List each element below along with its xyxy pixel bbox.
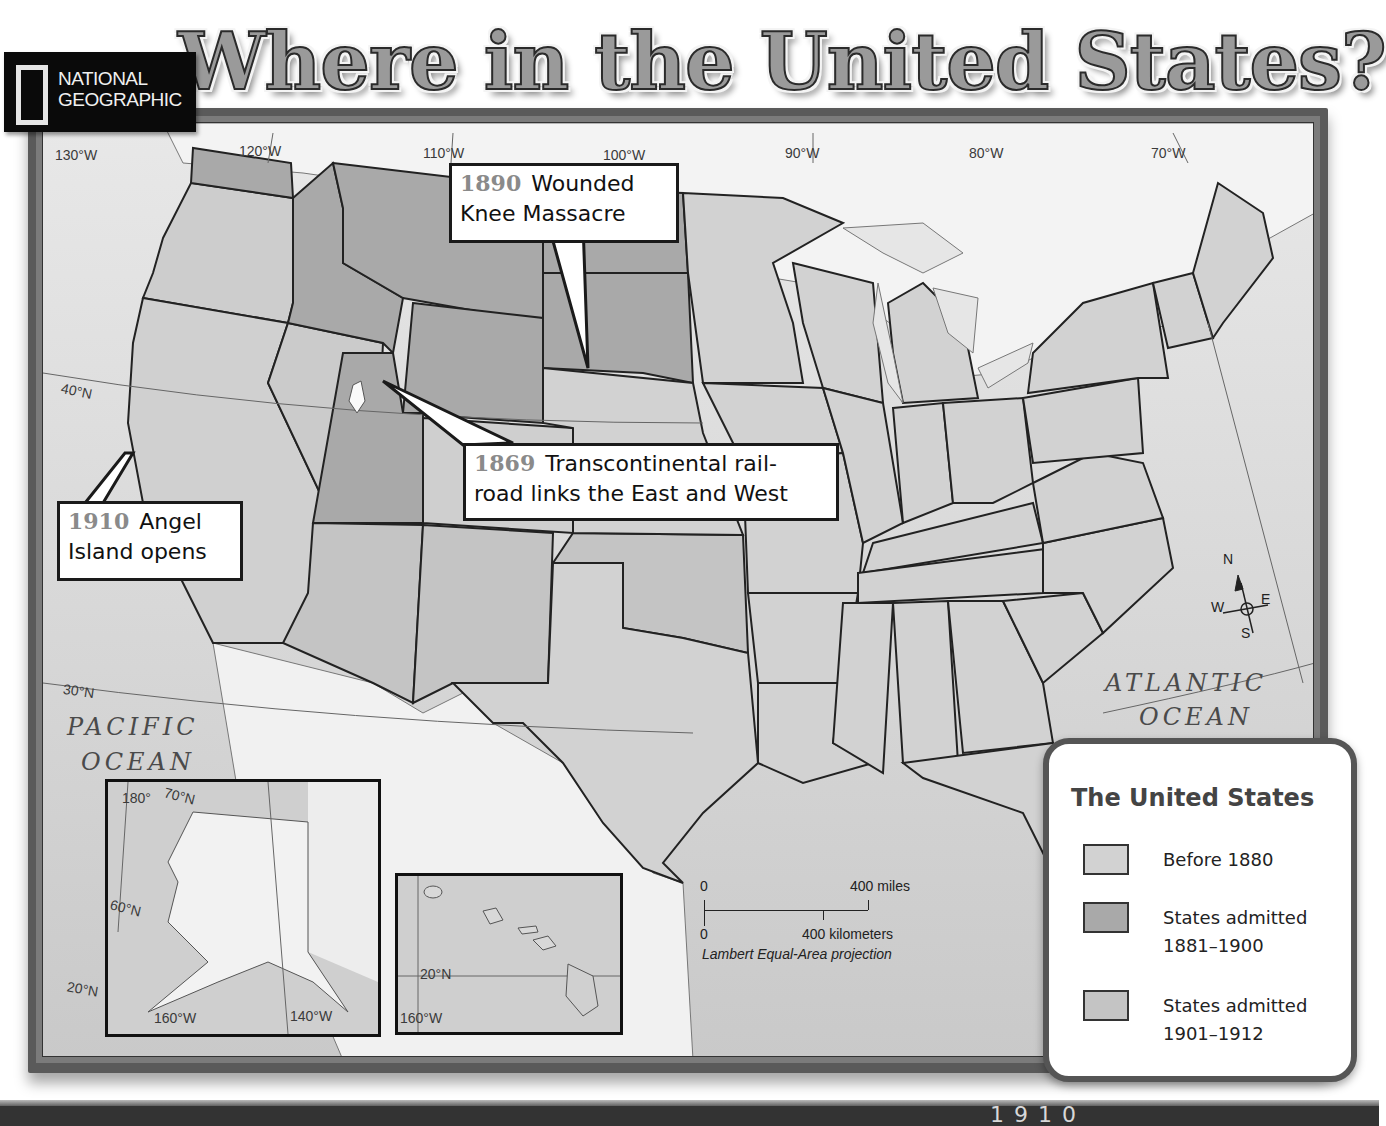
hawaii-map-graphic xyxy=(398,876,620,1032)
callout-text-line2: Island opens xyxy=(68,539,207,564)
hawaii-label-160w: 160°W xyxy=(400,1010,442,1026)
pacific-ocean-label-1: PACIFIC xyxy=(67,713,199,741)
hawaii-inset: 20°N 160°W xyxy=(395,873,623,1035)
national-geographic-logo: NATIONAL GEOGRAPHIC xyxy=(4,52,196,132)
pacific-ocean-label-2: OCEAN xyxy=(81,748,195,776)
compass-east: E xyxy=(1261,591,1270,607)
longitude-label-130w: 130°W xyxy=(55,147,97,163)
natgeo-line1: NATIONAL xyxy=(58,68,182,89)
callout-angel-island: 1910Angel Island opens xyxy=(57,501,243,581)
alaska-label-160w: 160°W xyxy=(154,1010,196,1026)
atlantic-ocean-label-1: ATLANTIC xyxy=(1105,669,1267,697)
state-ohio xyxy=(943,398,1033,503)
callout-text-line1: Transcontinental rail- xyxy=(545,451,777,476)
callout-text-line1: Wounded xyxy=(531,171,634,196)
scale-km-label: 400 kilometers xyxy=(802,926,893,942)
natgeo-yellow-border-icon xyxy=(16,65,48,125)
scale-km-zero: 0 xyxy=(700,926,708,942)
legend-swatch xyxy=(1083,844,1129,875)
compass-north: N xyxy=(1223,551,1233,567)
compass-south: S xyxy=(1241,625,1250,641)
title-banner: Where in the United States? xyxy=(178,6,1213,118)
natgeo-brand-text: NATIONAL GEOGRAPHIC xyxy=(58,68,182,110)
scale-bar: 0 400 miles 0 400 kilometers Lambert Equ… xyxy=(698,876,928,966)
legend-label: States admitted 1901–1912 xyxy=(1163,992,1323,1048)
alaska-label-180: 180° xyxy=(122,790,151,806)
longitude-label-120w: 120°W xyxy=(239,143,281,159)
longitude-label-110w: 110°W xyxy=(423,145,464,161)
hawaii-label-20n: 20°N xyxy=(420,966,451,982)
callout-transcontinental-railroad: 1869Transcontinental rail- road links th… xyxy=(463,443,839,521)
legend-label: Before 1880 xyxy=(1163,846,1323,874)
natgeo-line2: GEOGRAPHIC xyxy=(58,89,182,110)
legend-swatch xyxy=(1083,902,1129,933)
compass-west: W xyxy=(1211,599,1224,615)
atlantic-ocean-label-2: OCEAN xyxy=(1139,703,1253,731)
state-new-mexico xyxy=(413,525,553,703)
callout-year: 1869 xyxy=(474,450,535,476)
timeline-year-partial: 1910 xyxy=(990,1102,1086,1126)
longitude-label-70w: 70°W xyxy=(1151,145,1185,161)
projection-label: Lambert Equal-Area projection xyxy=(702,946,892,962)
longitude-label-90w: 90°W xyxy=(785,145,819,161)
scale-tick-miles xyxy=(868,900,869,910)
callout-year: 1910 xyxy=(68,508,129,534)
callout-text-line1: Angel xyxy=(139,509,202,534)
scale-miles-zero: 0 xyxy=(700,878,708,894)
callout-text-line2: Knee Massacre xyxy=(460,201,626,226)
scale-miles-label: 400 miles xyxy=(850,878,910,894)
callout-text-line2: road links the East and West xyxy=(474,481,788,506)
longitude-label-100w: 100°W xyxy=(603,147,645,163)
map-legend: The United States Before 1880 States adm… xyxy=(1043,738,1357,1082)
alaska-label-140w: 140°W xyxy=(290,1008,332,1024)
state-mississippi xyxy=(833,603,893,773)
page-title: Where in the United States? xyxy=(178,6,1386,118)
scale-tick-left xyxy=(704,900,705,926)
scale-line xyxy=(704,910,868,911)
callout-year: 1890 xyxy=(460,170,521,196)
alaska-map-graphic xyxy=(108,782,378,1034)
legend-label: States admitted 1881–1900 xyxy=(1163,904,1323,960)
callout-wounded-knee: 1890Wounded Knee Massacre xyxy=(449,163,679,243)
longitude-label-80w: 80°W xyxy=(969,145,1003,161)
legend-title: The United States xyxy=(1071,784,1314,812)
scale-tick-km xyxy=(823,910,824,920)
alaska-inset: 180° 70°N 60°N 160°W 140°W xyxy=(105,779,381,1037)
legend-swatch xyxy=(1083,990,1129,1021)
state-alabama xyxy=(893,601,958,763)
timeline-bar: 1910 xyxy=(0,1106,1379,1126)
